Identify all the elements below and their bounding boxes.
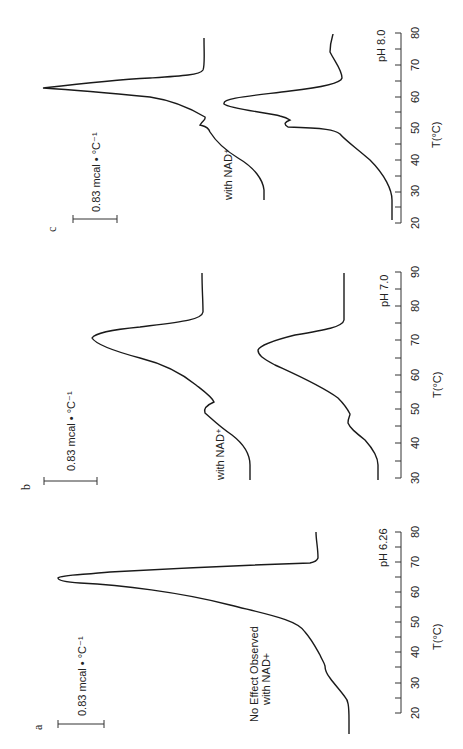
panel-label-b: b (19, 484, 33, 490)
tick-b-90: 90 (409, 266, 421, 278)
scale-bar-label-b: 0.83 mcal • °C⁻¹ (65, 391, 77, 471)
x-axis-a (395, 532, 401, 713)
panel-b: b 0.83 mcal • °C⁻¹ with NAD⁺ pH 7.0 (19, 266, 443, 490)
tick-c-70: 70 (409, 59, 421, 71)
annotation-with-nad-c: with NAD⁺ (222, 148, 234, 201)
annotation-line2-a: with NAD+ (260, 653, 272, 706)
scale-bar-label-a: 0.83 mcal • °C⁻¹ (76, 636, 88, 716)
tick-a-60: 60 (409, 586, 421, 598)
scale-bar-label-c: 0.83 mcal • °C⁻¹ (90, 132, 102, 212)
panel-label-a: a (31, 724, 45, 730)
tick-b-50: 50 (409, 403, 421, 415)
figure-canvas: c 0.83 mcal • °C⁻¹ with NAD⁺ pH 8.0 (0, 0, 463, 749)
curve-a (58, 532, 349, 734)
tick-a-70: 70 (409, 556, 421, 568)
tick-a-80: 80 (409, 526, 421, 538)
curve-b-with-nad (92, 273, 250, 480)
tick-c-80: 80 (409, 27, 421, 39)
tick-c-30: 30 (409, 185, 421, 197)
tick-a-30: 30 (409, 677, 421, 689)
xlabel-a: T(°C) (431, 624, 443, 650)
curve-b-without-nad (258, 273, 378, 480)
tick-c-40: 40 (409, 154, 421, 166)
tick-c-20: 20 (409, 217, 421, 229)
condition-label-c: pH 8.0 (375, 30, 387, 62)
annotation-line1-a: No Effect Observed (248, 626, 260, 722)
panel-a: a 0.83 mcal • °C⁻¹ No Effect Observed wi… (31, 526, 443, 734)
tick-b-80: 80 (409, 300, 421, 312)
scale-bar-c (73, 215, 117, 223)
tick-a-40: 40 (409, 646, 421, 658)
condition-label-a: pH 6.26 (377, 528, 389, 567)
scale-bar-a (58, 720, 104, 728)
annotation-with-nad-b: with NAD⁺ (214, 428, 226, 481)
tick-a-20: 20 (409, 707, 421, 719)
x-axis-b (395, 272, 401, 478)
panel-label-c: c (45, 227, 59, 232)
x-axis-c (395, 33, 401, 223)
tick-a-50: 50 (409, 616, 421, 628)
xlabel-c: T(°C) (430, 122, 442, 148)
panel-c: c 0.83 mcal • °C⁻¹ with NAD⁺ pH 8.0 (43, 27, 442, 232)
tick-b-40: 40 (409, 437, 421, 449)
tick-c-50: 50 (409, 122, 421, 134)
tick-c-60: 60 (409, 91, 421, 103)
condition-label-b: pH 7.0 (378, 275, 390, 307)
tick-b-30: 30 (409, 472, 421, 484)
curve-c-without-nad (224, 34, 392, 220)
tick-b-70: 70 (409, 334, 421, 346)
tick-b-60: 60 (409, 369, 421, 381)
scale-bar-b (44, 477, 97, 485)
xlabel-b: T(°C) (431, 372, 443, 398)
annotation-no-effect-a: No Effect Observed with NAD+ (248, 626, 272, 722)
